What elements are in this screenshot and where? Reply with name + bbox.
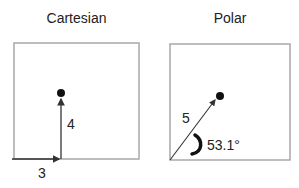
diagram-canvas bbox=[0, 0, 299, 188]
polar-angle-label: 53.1° bbox=[207, 137, 240, 153]
polar-point bbox=[216, 92, 224, 100]
cartesian-y-label: 4 bbox=[67, 116, 75, 132]
cartesian-point bbox=[57, 89, 65, 97]
angle-arc-icon bbox=[192, 135, 201, 154]
polar-title: Polar bbox=[170, 10, 290, 26]
cartesian-title: Cartesian bbox=[14, 10, 139, 26]
cartesian-x-label: 3 bbox=[38, 165, 46, 181]
cartesian-frame bbox=[14, 43, 139, 159]
polar-r-label: 5 bbox=[182, 110, 190, 126]
